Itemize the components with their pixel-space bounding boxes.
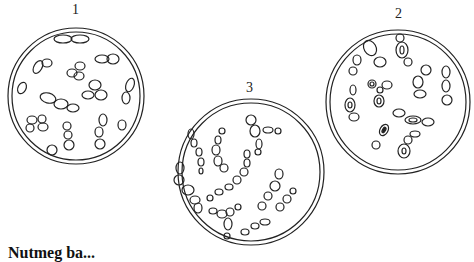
figure-caption: Nutmeg ba...	[8, 244, 95, 262]
dish-2	[326, 30, 470, 174]
dish-1	[8, 28, 144, 164]
dish-3	[174, 99, 324, 245]
